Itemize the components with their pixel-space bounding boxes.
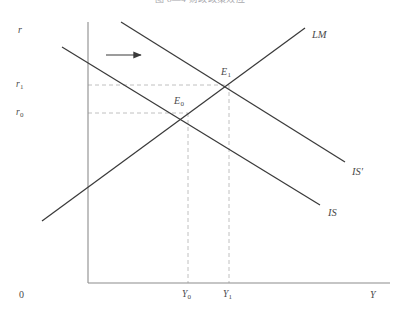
lm-curve xyxy=(42,28,305,221)
is-curve xyxy=(62,47,320,205)
tick-label-r1: r1 xyxy=(16,80,23,90)
tick-label-Y1: Y1 xyxy=(223,290,232,300)
is-lm-diagram-canvas xyxy=(0,0,400,318)
x-axis-label: Y xyxy=(370,290,376,300)
equilibrium-label-E1: E1 xyxy=(221,67,231,77)
tick-label-Y0-sub: 0 xyxy=(188,293,192,301)
is-prime-curve-label: IS′ xyxy=(352,167,363,178)
equilibrium-label-E1-sub: 1 xyxy=(227,71,231,79)
tick-label-r0: r0 xyxy=(16,108,23,118)
is-prime-curve-label-suffix: ′ xyxy=(361,166,363,177)
tick-label-Y1-base: Y xyxy=(223,289,228,299)
equilibrium-label-E0-sub: 0 xyxy=(180,100,184,108)
y-axis-label: r xyxy=(18,25,22,35)
tick-label-Y0-base: Y xyxy=(182,289,187,299)
equilibrium-label-E0: E0 xyxy=(174,96,184,106)
is-prime-curve-label-base: IS xyxy=(352,166,361,177)
lm-curve-label: LM xyxy=(312,30,327,41)
tick-label-r1-sub: 1 xyxy=(20,83,24,91)
axes xyxy=(88,22,390,283)
tick-label-Y0: Y0 xyxy=(182,290,191,300)
is-curve-label: IS xyxy=(328,208,337,219)
is-prime-curve xyxy=(121,22,345,162)
origin-label: 0 xyxy=(19,290,24,300)
tick-label-Y1-sub: 1 xyxy=(229,293,233,301)
is-lm-figure: 图 8—4 财政政策效应 xyxy=(0,0,400,318)
guide-lines xyxy=(88,85,229,283)
tick-label-r0-sub: 0 xyxy=(20,111,24,119)
